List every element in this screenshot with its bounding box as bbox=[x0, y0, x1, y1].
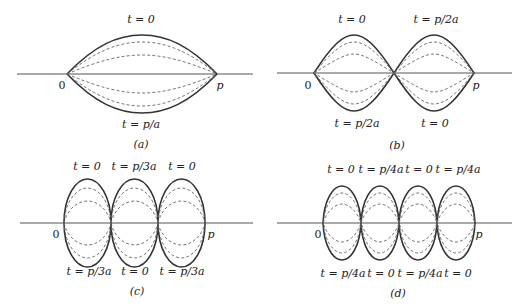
panel-a-top-label-1: t = 0 bbox=[127, 14, 155, 25]
panel-d-bottom-label-1: t = p/4a bbox=[321, 268, 366, 279]
panel-b-left-end-label: 0 bbox=[305, 80, 312, 91]
panel-c-top-label-1: t = 0 bbox=[73, 161, 101, 172]
panel-d-top-label-2: t = p/4a bbox=[359, 164, 404, 175]
panel-c-caption: (c) bbox=[130, 286, 145, 297]
panel-c-bottom-label-3: t = p/3a bbox=[160, 266, 205, 277]
panel-c-right-end-label: p bbox=[207, 229, 214, 240]
panel-a-right-end-label: p bbox=[216, 80, 223, 91]
panel-c-diagram bbox=[20, 179, 253, 267]
panel-b-bottom-label-2: t = 0 bbox=[421, 118, 449, 129]
panel-b-top-label-1: t = 0 bbox=[338, 14, 366, 25]
panel-d-caption: (d) bbox=[390, 288, 406, 299]
panel-a-diagram bbox=[17, 35, 253, 113]
panel-d-right-end-label: p bbox=[475, 229, 482, 240]
panel-d-bottom-label-3: t = p/4a bbox=[398, 268, 443, 279]
panel-c-bottom-label-1: t = p/3a bbox=[67, 266, 112, 277]
panel-b-right-end-label: p bbox=[472, 80, 479, 91]
panel-d-diagram bbox=[277, 186, 512, 260]
panel-a-wave-top bbox=[67, 35, 217, 74]
panel-a-dash-top-1 bbox=[67, 42, 217, 74]
panel-b-top-label-2: t = p/2a bbox=[414, 14, 459, 25]
panel-d-top-label-1: t = 0 bbox=[327, 164, 355, 175]
panel-a-caption: (a) bbox=[133, 139, 148, 150]
panel-c-bottom-label-2: t = 0 bbox=[121, 266, 149, 277]
panel-a-dash-bottom-1 bbox=[67, 74, 217, 106]
panel-d-top-label-3: t = 0 bbox=[405, 164, 433, 175]
panel-d-bottom-label-2: t = 0 bbox=[367, 268, 395, 279]
panel-c-top-label-2: t = p/3a bbox=[112, 161, 157, 172]
panel-c-left-end-label: 0 bbox=[53, 229, 60, 240]
panel-b-diagram bbox=[277, 35, 512, 111]
panel-d-top-label-4: t = p/4a bbox=[436, 164, 481, 175]
standing-wave-figure bbox=[0, 0, 528, 308]
panel-a-wave-bottom bbox=[67, 74, 217, 113]
panel-a-left-end-label: 0 bbox=[59, 80, 66, 91]
panel-d-left-end-label: 0 bbox=[315, 229, 322, 240]
panel-b-caption: (b) bbox=[389, 140, 405, 151]
panel-d-bottom-label-4: t = 0 bbox=[444, 268, 472, 279]
panel-b-bottom-label-1: t = p/2a bbox=[335, 118, 380, 129]
panel-c-top-label-3: t = 0 bbox=[168, 161, 196, 172]
panel-a-bottom-label-1: t = p/a bbox=[122, 119, 160, 130]
